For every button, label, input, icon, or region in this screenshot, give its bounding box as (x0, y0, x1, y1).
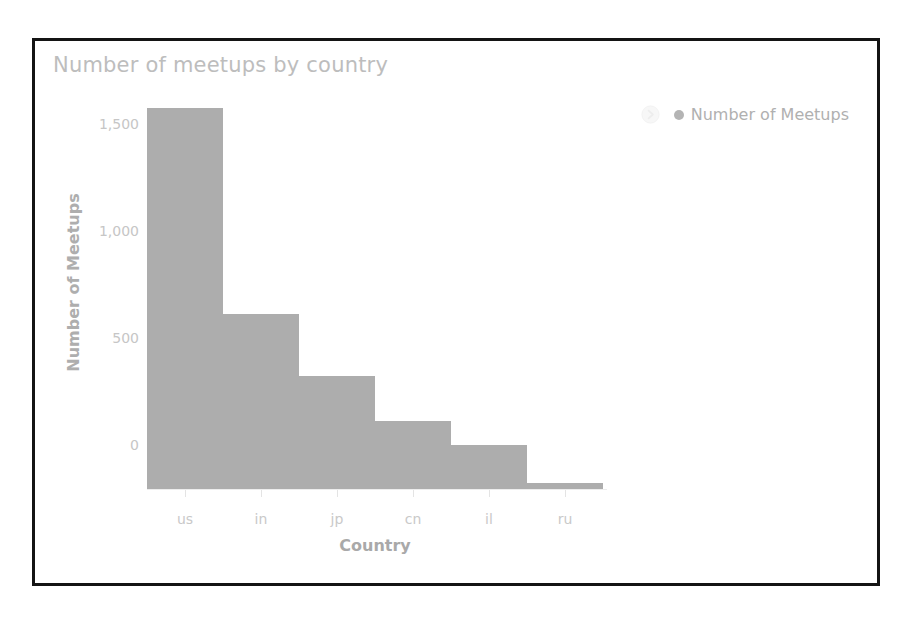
x-tick-label: in (255, 511, 268, 527)
bar-slot: us (147, 41, 223, 583)
y-tick-label: 1,000 (69, 223, 139, 239)
x-tick-label: jp (331, 511, 344, 527)
x-tick-label: ru (558, 511, 573, 527)
x-tick-label: us (177, 511, 193, 527)
bar-slot: cn (375, 41, 451, 583)
y-tick-label: 0 (69, 437, 139, 453)
bar-us[interactable] (147, 108, 223, 489)
x-tick-mark (185, 490, 186, 497)
bar-series: us in jp cn (147, 41, 603, 583)
y-tick-label: 1,500 (69, 116, 139, 132)
bar-jp[interactable] (299, 376, 375, 489)
bar-ru[interactable] (527, 483, 603, 489)
y-axis-ticks: 0 500 1,000 1,500 (57, 41, 139, 583)
x-tick-mark (413, 490, 414, 497)
x-tick-mark (489, 490, 490, 497)
x-tick-label: cn (405, 511, 422, 527)
x-tick-mark (261, 490, 262, 497)
bar-slot: jp (299, 41, 375, 583)
x-tick-mark (337, 490, 338, 497)
bar-cn[interactable] (375, 421, 451, 489)
bar-slot: in (223, 41, 299, 583)
bar-il[interactable] (451, 445, 527, 489)
bar-slot: il (451, 41, 527, 583)
bar-in[interactable] (223, 314, 299, 489)
bar-chart-plot: Number of Meetups 0 500 1,000 1,500 us (35, 41, 877, 583)
x-axis-title: Country (147, 536, 603, 555)
x-tick-label: il (485, 511, 493, 527)
bar-slot: ru (527, 41, 603, 583)
x-tick-mark (565, 490, 566, 497)
y-tick-label: 500 (69, 330, 139, 346)
chart-panel: Number of meetups by country Number of M… (32, 38, 880, 586)
